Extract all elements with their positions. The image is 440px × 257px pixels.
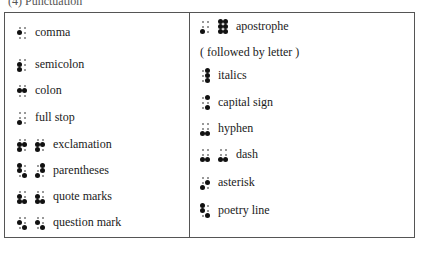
section-heading: (4) Punctuation xyxy=(8,0,82,9)
braille-dot-icon xyxy=(40,199,45,204)
braille-cell-icon xyxy=(35,189,45,204)
braille-dot-icon xyxy=(22,225,27,230)
punctuation-label: hyphen xyxy=(218,121,253,136)
braille-cell-icon xyxy=(35,163,45,178)
braille-cell-icon xyxy=(17,189,27,204)
punctuation-label: dash xyxy=(236,147,258,162)
punctuation-label: asterisk xyxy=(218,175,255,190)
braille-dot-icon xyxy=(205,29,210,34)
punctuation-label: colon xyxy=(35,83,62,98)
braille-dot-icon xyxy=(223,29,228,34)
braille-cell-icon xyxy=(35,215,45,230)
braille-dot-icon xyxy=(40,147,45,152)
braille-cell-icon xyxy=(35,137,45,152)
braille-dot-icon xyxy=(205,131,210,136)
braille-entry: poetry line xyxy=(200,203,270,218)
braille-cell-icon xyxy=(17,83,27,98)
punctuation-label: capital sign xyxy=(218,95,273,110)
punctuation-label: parentheses xyxy=(53,163,109,178)
braille-entry: apostrophe xyxy=(200,19,289,34)
braille-entry: question mark xyxy=(17,215,121,230)
braille-entry: capital sign xyxy=(200,95,273,110)
punctuation-label: exclamation xyxy=(53,137,112,152)
braille-dot-icon xyxy=(205,185,210,190)
braille-cell-icon xyxy=(200,19,210,34)
braille-dot-icon xyxy=(205,157,210,162)
punctuation-label: apostrophe xyxy=(236,19,289,34)
braille-entry: semicolon xyxy=(17,57,84,72)
braille-dot-icon xyxy=(22,35,27,40)
note-label: ( followed by letter ) xyxy=(200,45,299,60)
note-text: ( followed by letter ) xyxy=(200,45,299,60)
punctuation-label: semicolon xyxy=(35,57,84,72)
right-column: apostrophe( followed by letter )italicsc… xyxy=(190,13,414,237)
braille-cell-icon xyxy=(218,147,228,162)
braille-dot-icon xyxy=(22,173,27,178)
braille-cell-icon xyxy=(17,163,27,178)
braille-dot-icon xyxy=(22,120,27,125)
braille-cell-icon xyxy=(200,95,210,110)
braille-cell-icon xyxy=(17,110,27,125)
left-column: commasemicoloncolonfull stopexclamationp… xyxy=(5,13,190,237)
punctuation-label: full stop xyxy=(35,110,75,125)
braille-dot-icon xyxy=(205,78,210,83)
braille-entry: exclamation xyxy=(17,137,112,152)
punctuation-label: italics xyxy=(218,68,247,83)
braille-cell-icon xyxy=(200,175,210,190)
braille-cell-icon xyxy=(17,25,27,40)
braille-dot-icon xyxy=(205,105,210,110)
braille-entry: colon xyxy=(17,83,62,98)
braille-entry: parentheses xyxy=(17,163,109,178)
braille-entry: full stop xyxy=(17,110,75,125)
braille-dot-icon xyxy=(40,225,45,230)
punctuation-label: quote marks xyxy=(53,189,112,204)
braille-cell-icon xyxy=(17,215,27,230)
braille-cell-icon xyxy=(200,68,210,83)
punctuation-label: question mark xyxy=(53,215,121,230)
braille-dot-icon xyxy=(205,213,210,218)
braille-cell-icon xyxy=(200,121,210,136)
braille-dot-icon xyxy=(223,157,228,162)
braille-entry: italics xyxy=(200,68,247,83)
braille-dot-icon xyxy=(22,147,27,152)
braille-dot-icon xyxy=(40,173,45,178)
braille-entry: asterisk xyxy=(200,175,255,190)
braille-cell-icon xyxy=(17,137,27,152)
punctuation-label: comma xyxy=(35,25,70,40)
braille-cell-icon xyxy=(218,19,228,34)
braille-cell-icon xyxy=(17,57,27,72)
braille-cell-icon xyxy=(200,147,210,162)
braille-entry: hyphen xyxy=(200,121,253,136)
braille-dot-icon xyxy=(22,199,27,204)
braille-entry: comma xyxy=(17,25,70,40)
braille-dot-icon xyxy=(22,93,27,98)
braille-entry: dash xyxy=(200,147,258,162)
punctuation-label: poetry line xyxy=(218,203,270,218)
braille-cell-icon xyxy=(200,203,210,218)
braille-dot-icon xyxy=(22,67,27,72)
braille-entry: quote marks xyxy=(17,189,112,204)
braille-punctuation-table: commasemicoloncolonfull stopexclamationp… xyxy=(4,12,415,238)
